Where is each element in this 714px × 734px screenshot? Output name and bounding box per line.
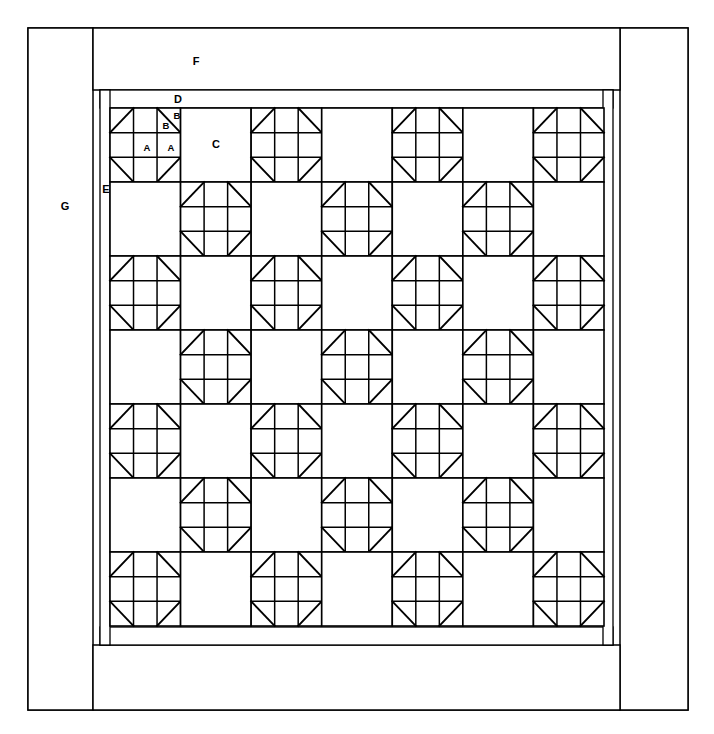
border-piece-D-bottom xyxy=(100,627,613,645)
block-outline xyxy=(392,182,463,256)
block-outline xyxy=(463,108,534,182)
plain-block-C xyxy=(110,182,181,256)
plain-block-C xyxy=(463,404,534,478)
label-A-left: A xyxy=(144,142,151,153)
star-block xyxy=(181,182,252,256)
star-block xyxy=(251,552,322,626)
star-block xyxy=(322,478,393,552)
border-piece-F-bottom xyxy=(93,645,620,710)
block-outline xyxy=(392,108,463,182)
block-outline xyxy=(392,256,463,330)
star-block xyxy=(181,478,252,552)
block-outline xyxy=(251,182,322,256)
block-outline xyxy=(181,404,252,478)
star-block xyxy=(322,182,393,256)
label-C: C xyxy=(212,138,220,150)
block-outline xyxy=(463,404,534,478)
star-block xyxy=(181,330,252,404)
star-block xyxy=(392,404,463,478)
block-outline xyxy=(322,552,393,626)
block-outline xyxy=(533,404,604,478)
block-outline xyxy=(322,256,393,330)
plain-block-C xyxy=(392,330,463,404)
border-piece-E-left xyxy=(100,90,110,645)
star-block xyxy=(463,478,534,552)
plain-block-C xyxy=(110,330,181,404)
plain-block-C xyxy=(463,256,534,330)
block-outline xyxy=(533,478,604,552)
block-outline xyxy=(322,108,393,182)
label-B-upper: B xyxy=(174,110,181,121)
border-piece-G-left xyxy=(28,28,93,710)
block-outline xyxy=(110,330,181,404)
plain-block-C xyxy=(251,330,322,404)
block-outline xyxy=(251,404,322,478)
plain-block-C xyxy=(251,182,322,256)
block-outline xyxy=(181,478,252,552)
plain-block-C xyxy=(181,256,252,330)
label-D: D xyxy=(174,93,182,105)
star-block xyxy=(533,256,604,330)
block-outline xyxy=(322,330,393,404)
border-piece-F-top xyxy=(93,28,620,90)
block-outline xyxy=(322,182,393,256)
plain-block-C xyxy=(322,108,393,182)
plain-block-C xyxy=(533,182,604,256)
block-outline xyxy=(463,182,534,256)
block-outline xyxy=(110,478,181,552)
block-outline xyxy=(463,478,534,552)
block-outline xyxy=(533,256,604,330)
block-outline xyxy=(110,182,181,256)
plain-block-C xyxy=(181,552,252,626)
block-outline xyxy=(392,330,463,404)
block-outline xyxy=(322,478,393,552)
label-A-right: A xyxy=(168,142,175,153)
block-outline xyxy=(533,330,604,404)
block-outline xyxy=(392,552,463,626)
plain-block-C xyxy=(251,478,322,552)
block-outline xyxy=(533,182,604,256)
plain-block-C xyxy=(322,404,393,478)
star-block xyxy=(322,330,393,404)
block-outline xyxy=(110,256,181,330)
block-outline xyxy=(251,552,322,626)
plain-block-C xyxy=(322,256,393,330)
block-outline xyxy=(181,182,252,256)
star-block xyxy=(533,108,604,182)
plain-block-C xyxy=(392,478,463,552)
block-outline xyxy=(251,108,322,182)
block-outline xyxy=(181,256,252,330)
star-block xyxy=(110,256,181,330)
star-block xyxy=(110,404,181,478)
block-outline xyxy=(392,478,463,552)
block-outline xyxy=(463,256,534,330)
block-outline xyxy=(110,552,181,626)
star-block xyxy=(533,552,604,626)
border-piece-G-right xyxy=(620,28,688,710)
star-block xyxy=(392,552,463,626)
star-block xyxy=(251,256,322,330)
plain-block-C xyxy=(463,552,534,626)
block-outline xyxy=(533,552,604,626)
plain-block-C xyxy=(110,478,181,552)
block-outline xyxy=(251,478,322,552)
block-outline xyxy=(251,256,322,330)
star-block xyxy=(392,256,463,330)
block-outline xyxy=(110,404,181,478)
plain-block-C xyxy=(533,478,604,552)
block-outline xyxy=(181,330,252,404)
plain-block-C xyxy=(181,404,252,478)
block-outline xyxy=(322,404,393,478)
label-F: F xyxy=(193,55,200,67)
plain-block-C xyxy=(463,108,534,182)
label-B-lower: B xyxy=(163,120,170,131)
block-outline xyxy=(181,552,252,626)
star-block xyxy=(463,182,534,256)
block-outline xyxy=(251,330,322,404)
star-block xyxy=(110,552,181,626)
block-outline xyxy=(463,330,534,404)
star-block xyxy=(392,108,463,182)
star-block xyxy=(251,108,322,182)
plain-block-C xyxy=(533,330,604,404)
star-block xyxy=(463,330,534,404)
